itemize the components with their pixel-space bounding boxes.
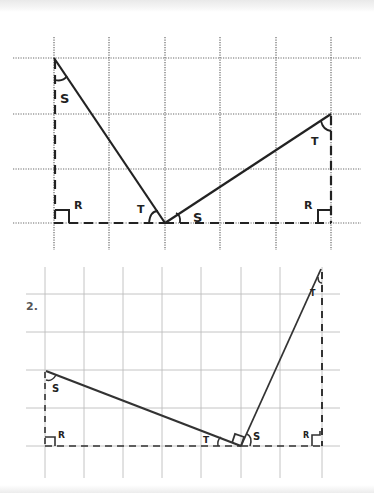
- hypotenuse-segment: [241, 269, 321, 446]
- angle-label-t: T: [310, 289, 316, 298]
- angle-label-t: T: [311, 135, 319, 148]
- angle-label-s: S: [52, 383, 59, 394]
- angle-label-s: S: [60, 91, 69, 106]
- hypotenuse-segment: [46, 371, 241, 446]
- angle-label-s: S: [253, 431, 260, 442]
- figure-2-right-triangle: S T R: [241, 269, 322, 446]
- right-angle-marker: [312, 431, 320, 446]
- angle-arc-s: [55, 76, 67, 81]
- right-angle-marker: [318, 210, 331, 223]
- right-angle-marker: [45, 437, 55, 446]
- angle-arc-s: [247, 434, 251, 446]
- angle-label-s: S: [193, 210, 202, 225]
- figure-2-left-triangle: S R T: [45, 371, 241, 446]
- figure-2: S R T S T R: [26, 267, 340, 478]
- angle-label-t: T: [203, 435, 210, 445]
- figure-1-dotted-grid: [13, 37, 361, 250]
- right-angle-marker: [55, 210, 69, 223]
- angle-label-t: T: [137, 203, 145, 216]
- angle-label-r: R: [58, 430, 65, 440]
- angle-label-r: R: [303, 431, 309, 440]
- figure-1: S R T S T R: [13, 37, 361, 250]
- problem-number-label: 2.: [26, 300, 38, 313]
- angle-label-r: R: [304, 199, 313, 212]
- angle-label-r: R: [74, 199, 83, 212]
- angle-arc-t: [149, 211, 158, 223]
- angle-arc-s: [46, 375, 56, 380]
- worksheet-diagrams: S R T S T R S R T: [0, 0, 374, 493]
- angle-arc-t: [321, 121, 331, 131]
